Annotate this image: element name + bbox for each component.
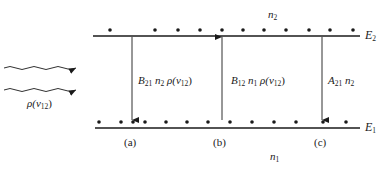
upper-population-dots <box>108 28 355 32</box>
population-dot <box>119 120 123 124</box>
coef-symbol: A <box>328 74 335 86</box>
radiation-wave-icon <box>4 67 76 92</box>
population-dot <box>294 120 298 124</box>
population-dot <box>185 120 189 124</box>
population-dot <box>131 120 135 124</box>
lower-population-subscript: 1 <box>276 155 280 164</box>
population-dot <box>220 28 224 32</box>
population-dot <box>262 28 266 32</box>
field-suffix: ) <box>281 74 285 86</box>
field-suffix: ) <box>188 74 192 86</box>
population-dot <box>250 120 254 124</box>
case-label-c: (c) <box>314 137 326 148</box>
coef-subscript: 21 <box>145 79 153 88</box>
upper-population-label: n2 <box>268 9 277 22</box>
coef-subscript: 21 <box>335 79 343 88</box>
population-dot <box>328 28 332 32</box>
pop-subscript: 2 <box>350 79 354 88</box>
population-dot <box>351 28 355 32</box>
radiation-label-prefix: ρ(ν <box>27 97 41 109</box>
upper-level-subscript: 2 <box>372 34 376 43</box>
population-dot <box>198 28 202 32</box>
population-dot <box>307 28 311 32</box>
population-dot <box>241 28 245 32</box>
coef-subscript: 12 <box>238 79 246 88</box>
population-dot <box>108 28 112 32</box>
lower-level-label: E1 <box>365 121 376 135</box>
population-dot <box>176 28 180 32</box>
population-dot <box>153 28 157 32</box>
upper-level-label: E2 <box>365 29 376 43</box>
field-prefix: ρ(ν <box>167 74 181 86</box>
lower-level-subscript: 1 <box>372 126 376 135</box>
rate-label-c: A21 n2 <box>328 75 354 88</box>
population-dot <box>206 120 210 124</box>
upper-population-subscript: 2 <box>274 13 278 22</box>
pop-subscript: 2 <box>160 79 164 88</box>
coef-symbol: B <box>138 74 145 86</box>
radiation-label-suffix: ) <box>48 97 52 109</box>
population-dot <box>228 120 232 124</box>
case-label-b: (b) <box>213 137 226 148</box>
population-dot <box>321 120 325 124</box>
population-dot <box>164 120 168 124</box>
pop-subscript: 1 <box>253 79 257 88</box>
radiation-density-label: ρ(ν12) <box>27 98 52 111</box>
population-dot <box>284 28 288 32</box>
population-dot <box>272 120 276 124</box>
coef-symbol: B <box>231 74 238 86</box>
population-dot <box>143 120 147 124</box>
rate-label-a: B21 n2 ρ(ν12) <box>138 75 192 88</box>
rate-label-b: B12 n1 ρ(ν12) <box>231 75 285 88</box>
population-dot <box>344 120 348 124</box>
population-dot <box>97 120 101 124</box>
field-prefix: ρ(ν <box>260 74 274 86</box>
lower-population-dots <box>97 120 348 124</box>
case-label-a: (a) <box>124 137 136 148</box>
lower-population-label: n1 <box>270 151 279 164</box>
